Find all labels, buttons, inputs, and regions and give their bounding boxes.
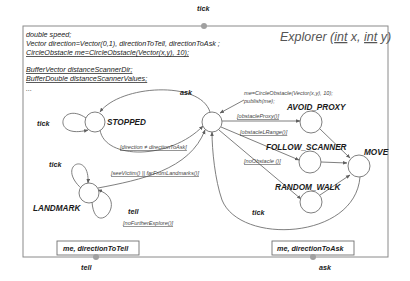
state-label-landmark: LANDMARK <box>33 204 81 213</box>
state-avoid-proxy[interactable] <box>300 111 322 133</box>
port-tell[interactable] <box>93 254 99 260</box>
state-random-walk[interactable] <box>300 191 322 213</box>
guard-label: [seeVictim() || farFromLandmarks()] <box>110 170 199 176</box>
explorer-state-diagram: tick Explorer (int x, int y) double spee… <box>0 0 410 281</box>
svg-text:Explorer (int x, int y): Explorer (int x, int y) <box>280 30 391 44</box>
state-follow-scanner[interactable] <box>299 151 321 173</box>
declaration-line: BufferDouble distanceScannerValues; <box>26 74 147 83</box>
action-label: me=CircleObstacle(Vector(x,y), 10); <box>244 90 333 96</box>
state-stopped[interactable] <box>85 112 105 132</box>
component-title: Explorer (int x, int y) <box>280 30 391 44</box>
transition-label: ask <box>180 88 193 97</box>
port-label-tick: tick <box>197 4 210 13</box>
transition-label: tick <box>37 119 50 128</box>
state-move[interactable] <box>348 155 370 177</box>
state-hub[interactable] <box>202 112 222 132</box>
port-box-label: me, directionToTell <box>63 244 129 253</box>
state-label-move: MOVE <box>364 148 389 157</box>
transition-label: tick <box>252 208 265 217</box>
guard-label: [obstacleLRange()] <box>239 129 288 135</box>
port-label-tell: tell <box>81 263 92 272</box>
port-box-label: me, directionToAsk <box>277 244 344 253</box>
action-label: publish(me); <box>243 98 275 104</box>
declaration-line: BufferVector distanceScannerDir; <box>26 65 132 74</box>
port-label-ask: ask <box>319 263 332 272</box>
declaration-line: double speed; <box>26 30 71 39</box>
guard-label: [noFurtherExplore()] <box>122 220 173 226</box>
guard-label: [noObstacle ()] <box>243 158 281 164</box>
state-label-stopped: STOPPED <box>107 118 146 127</box>
transition-label: tell <box>128 207 139 216</box>
state-label-avoid-proxy: AVOID_PROXY <box>286 103 347 112</box>
state-label-random-walk: RANDOM_WALK <box>275 183 342 192</box>
state-landmark[interactable] <box>79 183 99 203</box>
guard-label: [obstacleProxy()] <box>236 113 279 119</box>
declaration-line: Vector direction=Vector(0,1), directionT… <box>26 39 220 48</box>
port-ask[interactable] <box>310 254 316 260</box>
declaration-line: CircleObstacle me=CircleObstacle(Vector(… <box>26 48 189 57</box>
guard-label: [direction ≠ directionToAsk] <box>119 144 187 150</box>
declaration-ellipsis: ... <box>26 84 32 93</box>
port-tick[interactable] <box>201 23 207 29</box>
transition-label: tick <box>49 160 62 169</box>
state-label-follow-scanner: FOLLOW_SCANNER <box>266 143 347 152</box>
